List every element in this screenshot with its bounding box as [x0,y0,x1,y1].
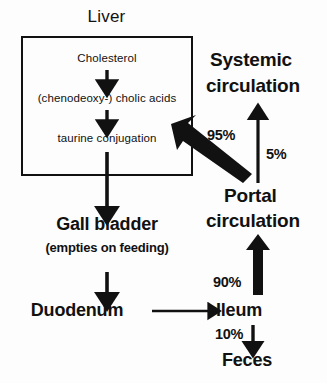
node-systemic-circulation-line2: circulation [206,76,327,95]
label-percent-ileum-to-feces: 10% [215,327,243,342]
node-gall-bladder-note: (empties on feeding) [0,241,214,254]
arrow-ileum-to-portal [246,234,270,295]
node-ileum: Ileum [216,301,262,319]
node-feces: Feces [222,351,272,369]
node-portal-circulation-line1: Portal [224,186,327,205]
label-percent-ileum-to-portal: 90% [213,275,241,290]
node-gall-bladder: Gall bladder [0,215,214,233]
enterohepatic-circulation-diagram: Liver Cholesterol (chenodeoxy-) cholic a… [0,0,327,383]
liver-caption: Liver [0,8,327,25]
label-percent-portal-to-liver: 95% [207,128,235,143]
liver-step-cholic-acids: (chenodeoxy-) cholic acids [18,93,196,105]
node-duodenum: Duodenum [0,301,154,319]
liver-step-cholesterol: Cholesterol [21,53,193,65]
node-portal-circulation-line2: circulation [206,211,327,230]
liver-step-taurine-conjugation: taurine conjugation [21,133,193,145]
node-systemic-circulation-line1: Systemic [210,50,327,69]
label-percent-portal-to-systemic: 5% [266,147,286,162]
